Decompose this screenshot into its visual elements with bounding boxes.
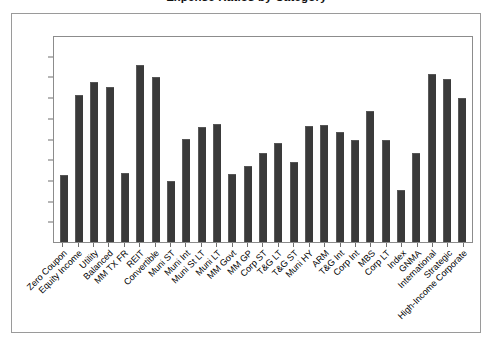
bar [198, 127, 206, 242]
bar-slot [363, 37, 378, 242]
bar [412, 153, 420, 242]
bar-slot [409, 37, 424, 242]
bar-slot [240, 37, 255, 242]
bar-slot [56, 37, 71, 242]
bar-slot [194, 37, 209, 242]
figure-title: Expense Ratios by Category [166, 0, 327, 3]
bar [443, 79, 451, 242]
x-label-slot: High-Income Corporate [456, 248, 471, 343]
bar-slot [163, 37, 178, 242]
bar-slot [133, 37, 148, 242]
bar-slot [455, 37, 470, 242]
bar [428, 74, 436, 242]
bar-slot [347, 37, 362, 242]
bar [382, 140, 390, 242]
chart-figure: Expense Ratios by Category 2.001.801.601… [0, 0, 493, 345]
bar [366, 111, 374, 242]
bar-slot [71, 37, 86, 242]
bar [136, 65, 144, 242]
clipped-title-strip: Expense Ratios by Category [0, 0, 493, 12]
bar-slot [424, 37, 439, 242]
bar [336, 132, 344, 242]
bar-slot [148, 37, 163, 242]
bar-slot [286, 37, 301, 242]
bar-slot [317, 37, 332, 242]
bar-slot [439, 37, 454, 242]
bar-slot [332, 37, 347, 242]
y-axis: 2.001.801.601.401.201.000.800.600.400.20… [0, 36, 53, 243]
bar [320, 125, 328, 242]
x-axis-labels: Zero CouponEquity IncomeUtilityBalancedM… [53, 248, 473, 343]
bar [60, 175, 68, 242]
bar [75, 95, 83, 242]
bar-slot [209, 37, 224, 242]
bar [351, 140, 359, 242]
bar-slot [393, 37, 408, 242]
bar-slot [378, 37, 393, 242]
bar-slot [255, 37, 270, 242]
bar [305, 126, 313, 242]
bar-slot [179, 37, 194, 242]
bar-slot [225, 37, 240, 242]
bar-slot [271, 37, 286, 242]
bar [213, 124, 221, 242]
bar-slot [301, 37, 316, 242]
